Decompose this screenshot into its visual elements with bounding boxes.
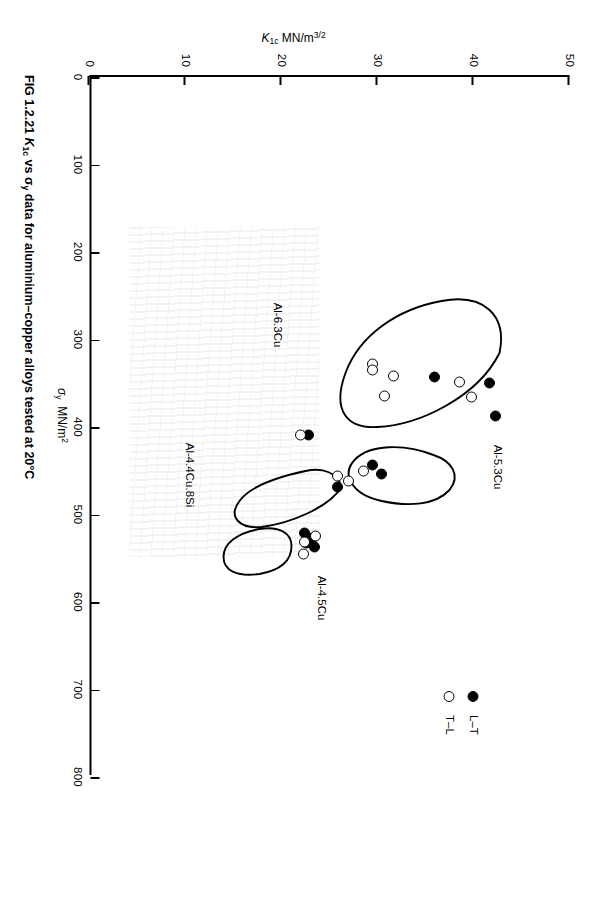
x-axis-title: σy MN/m2 (53, 388, 69, 443)
data-point-lt (332, 482, 343, 493)
data-point-lt (484, 378, 495, 389)
figure-caption: FIG 1.2.21 K1c vs σy data for aluminium–… (20, 75, 35, 479)
y-tick (567, 76, 569, 85)
filled-circle-icon (468, 683, 479, 709)
x-tick-label: 800 (71, 767, 83, 787)
x-tick-label: 700 (71, 680, 83, 700)
cluster-outlines (89, 77, 569, 777)
data-point-lt (309, 542, 320, 553)
y-tick (375, 76, 377, 85)
x-tick-label: 500 (71, 505, 83, 525)
legend-entry-lt: L–T (461, 683, 485, 735)
legend: L–T T–L (437, 683, 485, 735)
data-point-lt (490, 411, 501, 422)
x-axis-unit-exponent: 2 (59, 438, 69, 443)
data-point-tl (299, 537, 310, 548)
y-axis-title: K1c MN/m3/2 (261, 30, 325, 46)
y-tick-label: 30 (371, 47, 383, 67)
x-tick (90, 165, 99, 167)
x-tick-label: 400 (71, 417, 83, 437)
caption-vs: vs (21, 156, 35, 177)
data-point-lt (429, 372, 440, 383)
cluster-label-al-6-3cu: Al-6.3Cu (271, 303, 283, 348)
legend-entry-tl: T–L (437, 683, 461, 735)
data-point-tl (367, 365, 378, 376)
caption-rest: data for aluminium–copper alloys tested … (21, 190, 35, 479)
y-tick-label: 10 (179, 47, 191, 67)
figure-stage: Al-6.3Cu Al-5.3Cu Al-4.4Cu.8Si Al-4.5Cu … (0, 0, 591, 898)
x-tick-label: 0 (71, 74, 83, 81)
y-axis-unit-exponent: 3/2 (313, 30, 325, 40)
x-tick (90, 690, 99, 692)
caption-k-symbol: K (21, 138, 35, 147)
cluster-outline-al-6-3cu (340, 299, 501, 427)
cluster-label-al-5-3cu: Al-5.3Cu (491, 445, 503, 490)
data-point-tl (454, 377, 465, 388)
data-point-tl (295, 430, 306, 441)
y-tick-label: 50 (563, 47, 575, 67)
cluster-outline-al-4-5cu (223, 528, 291, 575)
y-tick-label: 40 (467, 47, 479, 67)
y-tick (279, 76, 281, 85)
x-tick (90, 427, 99, 429)
y-tick-label: 20 (275, 47, 287, 67)
x-tick (90, 777, 99, 779)
cluster-label-al-4-5cu: Al-4.5Cu (315, 576, 327, 621)
x-tick-label: 100 (71, 155, 83, 175)
x-axis-unit: MN/m (54, 406, 68, 438)
x-tick (90, 515, 99, 517)
data-point-tl (310, 531, 321, 542)
data-point-tl (466, 392, 477, 403)
data-point-tl (379, 391, 390, 402)
x-tick (90, 252, 99, 254)
plot-area: Al-6.3Cu Al-5.3Cu Al-4.4Cu.8Si Al-4.5Cu … (89, 75, 569, 775)
x-tick-label: 600 (71, 592, 83, 612)
y-tick-label: 0 (83, 47, 95, 67)
data-point-lt (376, 469, 387, 480)
x-tick-label: 200 (71, 242, 83, 262)
data-point-tl (343, 476, 354, 487)
y-axis-symbol: K (261, 31, 269, 45)
x-tick (90, 602, 99, 604)
y-axis-subscript: 1c (269, 36, 278, 46)
caption-k-subscript: 1c (20, 147, 30, 156)
cluster-label-al-4-4cu-8si: Al-4.4Cu.8Si (183, 443, 195, 508)
cluster-outline-al-4-4cu-8si (234, 470, 341, 527)
data-point-tl (332, 471, 343, 482)
x-tick (90, 340, 99, 342)
data-point-tl (358, 466, 369, 477)
y-axis-unit: MN/m (281, 31, 313, 45)
legend-label: T–L (443, 715, 455, 735)
data-point-tl (298, 549, 309, 560)
y-tick (471, 76, 473, 85)
legend-label: L–T (467, 715, 479, 735)
data-point-tl (388, 371, 399, 382)
x-tick (90, 77, 99, 79)
caption-figure-number: FIG 1.2.21 (21, 75, 35, 134)
y-tick (183, 76, 185, 85)
y-tick (87, 76, 89, 85)
open-circle-icon (444, 683, 455, 709)
x-tick-label: 300 (71, 330, 83, 350)
x-axis-subscript: y (53, 395, 63, 399)
